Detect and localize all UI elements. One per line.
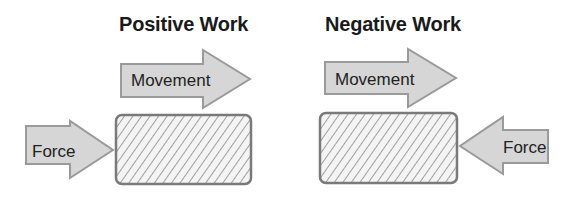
force-label: Force (503, 138, 546, 157)
positive-work-panel: Movement Force (26, 50, 251, 184)
force-label: Force (32, 142, 75, 161)
movement-label: Movement (335, 70, 415, 89)
negative-work-panel: Movement Force (320, 49, 548, 183)
hatched-block (320, 113, 457, 183)
movement-label: Movement (131, 71, 211, 90)
work-diagram: Movement Force Movement Force (0, 0, 573, 199)
hatched-block (116, 115, 251, 184)
